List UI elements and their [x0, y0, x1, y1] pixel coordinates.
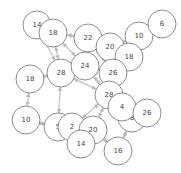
node-label: 26: [143, 109, 152, 117]
graph-node[interactable]: 14: [67, 130, 95, 158]
graph-node[interactable]: 4: [108, 93, 136, 121]
graph-node[interactable]: 6: [148, 10, 176, 38]
node-label: 6: [160, 20, 165, 28]
node-label: 18: [125, 53, 134, 61]
arrowhead-icon: [58, 87, 62, 91]
arrowhead-icon: [26, 102, 30, 106]
graph-node[interactable]: 26: [133, 99, 161, 127]
graph-node[interactable]: 24: [71, 52, 99, 80]
node-label: 28: [57, 69, 66, 77]
node-label: 4: [120, 103, 125, 111]
node-label: 16: [114, 147, 123, 155]
node-label: 26: [109, 69, 118, 77]
node-label: 10: [22, 116, 31, 124]
node-label: 10: [135, 32, 144, 40]
node-label: 14: [77, 140, 86, 148]
network-diagram: 1418221062018182824262810522014842616: [0, 0, 181, 173]
graph-node[interactable]: 10: [12, 106, 40, 134]
node-label: 24: [81, 62, 90, 70]
node-label: 22: [84, 34, 93, 42]
arrowhead-icon: [57, 109, 61, 113]
node-label: 18: [26, 75, 35, 83]
graph-node[interactable]: 18: [39, 19, 67, 47]
graph-node[interactable]: 18: [16, 65, 44, 93]
node-label: 18: [49, 29, 58, 37]
graph-node[interactable]: 16: [104, 137, 132, 165]
node-label: 20: [106, 43, 115, 51]
arrowhead-icon: [26, 93, 30, 97]
graph-node[interactable]: 28: [47, 59, 75, 87]
node-label: 2: [70, 123, 74, 131]
